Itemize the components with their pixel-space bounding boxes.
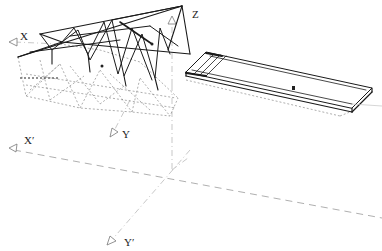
node-marker xyxy=(101,65,104,68)
deck-fixture xyxy=(292,86,295,90)
x-prime-arrow-icon xyxy=(9,144,17,152)
node-marker xyxy=(151,43,154,46)
truss-structure xyxy=(18,6,190,90)
z-axis-label: Z xyxy=(192,8,199,20)
y-prime-axis-line xyxy=(110,150,190,242)
y-prime-axis-label: Y′ xyxy=(124,236,134,248)
y-axis-label: Y xyxy=(122,128,130,140)
deck-platform xyxy=(186,52,382,116)
y-prime-arrow-icon xyxy=(107,236,116,245)
y-axis-line xyxy=(114,100,130,131)
x-axis-line xyxy=(14,42,60,44)
x-prime-axis-label: X′ xyxy=(24,134,34,146)
x-prime-axis-line xyxy=(14,150,382,218)
origin-tick xyxy=(172,158,188,170)
diagram-canvas: X Y Z X′ Y′ xyxy=(0,0,382,251)
x-axis-label: X xyxy=(20,30,28,42)
y-arrow-icon xyxy=(110,128,118,137)
truss-hidden-lines xyxy=(18,44,178,116)
z-arrow-icon xyxy=(168,16,176,24)
reference-axes xyxy=(9,85,382,245)
x-arrow-icon xyxy=(9,38,17,46)
